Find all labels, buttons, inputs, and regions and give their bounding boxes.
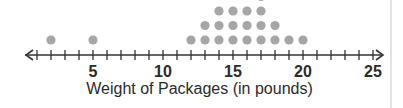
data-dot (214, 21, 223, 30)
data-dot (270, 21, 279, 30)
data-dot (228, 35, 237, 44)
data-dot (214, 6, 223, 15)
data-dot (298, 35, 307, 44)
x-axis-label-container: Weight of Packages (in pounds) (0, 80, 403, 98)
data-dot (46, 35, 55, 44)
tick-labels: 510152025 (89, 63, 382, 80)
data-dot (256, 21, 265, 30)
data-dot (88, 35, 97, 44)
data-dot (200, 21, 209, 30)
data-dot (242, 6, 251, 15)
data-dot (214, 35, 223, 44)
data-dot (270, 35, 279, 44)
data-dot (228, 21, 237, 30)
tick-label: 15 (224, 63, 242, 80)
tick-label: 5 (89, 63, 98, 80)
x-axis-label: Weight of Packages (in pounds) (86, 80, 313, 97)
data-dot (242, 21, 251, 30)
tick-label: 10 (154, 63, 172, 80)
data-dot (256, 6, 265, 15)
data-dot (242, 35, 251, 44)
data-dot (256, 35, 265, 44)
tick-label: 20 (294, 63, 312, 80)
data-dot (228, 6, 237, 15)
data-dot (256, 0, 265, 1)
data-dot (200, 35, 209, 44)
number-line-axis (25, 50, 383, 60)
tick-label: 25 (364, 63, 382, 80)
data-dot (284, 35, 293, 44)
data-dots (46, 0, 307, 45)
data-dot (186, 35, 195, 44)
